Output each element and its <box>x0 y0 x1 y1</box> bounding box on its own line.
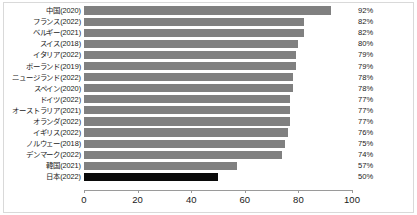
bar-track <box>84 83 352 94</box>
bar <box>84 140 285 148</box>
bar <box>84 18 304 26</box>
bar-value-label: 82% <box>352 17 412 26</box>
x-axis-tick <box>352 190 353 193</box>
bar-category-label: デンマーク(2022) <box>0 150 84 159</box>
bar-value-label: 77% <box>352 95 412 104</box>
bar-track <box>84 149 352 160</box>
x-axis-tick-label: 40 <box>186 194 197 206</box>
bar <box>84 29 304 37</box>
bar-track <box>84 94 352 105</box>
bar-value-label: 79% <box>352 50 412 59</box>
bar-value-label: 78% <box>352 84 412 93</box>
bar-category-label: オランダ(2022) <box>0 117 84 126</box>
x-axis-line <box>84 190 352 191</box>
x-axis-tick <box>245 190 246 193</box>
bar-category-label: オーストラリア(2021) <box>0 106 84 115</box>
bar <box>84 117 290 125</box>
bar-value-label: 78% <box>352 73 412 82</box>
bar-category-label: フランス(2022) <box>0 17 84 26</box>
bar <box>84 62 296 70</box>
plot-area: 中国(2020)92%フランス(2022)82%ベルギー(2021)82%スイス… <box>0 5 417 190</box>
bar-category-label: 韓国(2021) <box>0 161 84 170</box>
bar-value-label: 57% <box>352 161 412 170</box>
bar-category-label: ノルウェー(2018) <box>0 139 84 148</box>
bar <box>84 151 282 159</box>
bar <box>84 128 288 136</box>
x-axis-tick-label: 80 <box>293 194 304 206</box>
bar-row: ポーランド(2019)79% <box>0 60 417 71</box>
bar-row: 日本(2022)50% <box>0 171 417 182</box>
bar-value-label: 80% <box>352 39 412 48</box>
bar <box>84 40 298 48</box>
bar-row: フランス(2022)82% <box>0 16 417 27</box>
bar-row: ニュージランド(2022)78% <box>0 72 417 83</box>
bar <box>84 95 290 103</box>
bar-track <box>84 127 352 138</box>
bar-value-label: 77% <box>352 106 412 115</box>
bar-category-label: スイス(2018) <box>0 39 84 48</box>
bar-category-label: イタリア(2022) <box>0 50 84 59</box>
bar-value-label: 50% <box>352 172 412 181</box>
bar-category-label: 日本(2022) <box>0 172 84 181</box>
bar <box>84 162 237 170</box>
bar-row: オーストラリア(2021)77% <box>0 105 417 116</box>
bar-row: オランダ(2022)77% <box>0 116 417 127</box>
bar-track <box>84 171 352 182</box>
bar-value-label: 79% <box>352 62 412 71</box>
bar-category-label: ベルギー(2021) <box>0 28 84 37</box>
x-axis-tick-label: 0 <box>81 194 86 206</box>
bar-track <box>84 138 352 149</box>
bar-track <box>84 60 352 71</box>
bar-row: イギリス(2022)76% <box>0 127 417 138</box>
x-axis-tick <box>191 190 192 193</box>
bar-row: ベルギー(2021)82% <box>0 27 417 38</box>
bar-track <box>84 160 352 171</box>
bar-track <box>84 49 352 60</box>
bar-row: デンマーク(2022)74% <box>0 149 417 160</box>
bar-value-label: 92% <box>352 6 412 15</box>
bar-chart: 中国(2020)92%フランス(2022)82%ベルギー(2021)82%スイス… <box>0 0 417 215</box>
bar <box>84 51 296 59</box>
x-axis-tick-label: 20 <box>132 194 143 206</box>
bar-value-label: 76% <box>352 128 412 137</box>
bar-track <box>84 16 352 27</box>
x-axis-tick-label: 60 <box>240 194 251 206</box>
x-axis-tick <box>138 190 139 193</box>
bar-value-label: 75% <box>352 139 412 148</box>
x-axis-tick-label: 100 <box>344 194 360 206</box>
bar-row: ドイツ(2022)77% <box>0 94 417 105</box>
bar <box>84 84 293 92</box>
bar-row: スイス(2018)80% <box>0 38 417 49</box>
bar-row: イタリア(2022)79% <box>0 49 417 60</box>
bar-category-label: ポーランド(2019) <box>0 62 84 71</box>
bar <box>84 106 290 114</box>
bar-track <box>84 116 352 127</box>
x-axis-tick <box>84 190 85 193</box>
bar-row: 中国(2020)92% <box>0 5 417 16</box>
bar-row: ノルウェー(2018)75% <box>0 138 417 149</box>
bar-row: 韓国(2021)57% <box>0 160 417 171</box>
bar-track <box>84 72 352 83</box>
bar-row: スペイン(2020)78% <box>0 83 417 94</box>
bar-track <box>84 5 352 16</box>
bar <box>84 73 293 81</box>
bar-highlighted <box>84 173 218 181</box>
bar-category-label: ドイツ(2022) <box>0 95 84 104</box>
bar-value-label: 82% <box>352 28 412 37</box>
x-axis-tick <box>298 190 299 193</box>
bar-track <box>84 27 352 38</box>
bar-track <box>84 38 352 49</box>
x-axis: 020406080100 <box>84 190 352 212</box>
bar-track <box>84 105 352 116</box>
bar-category-label: イギリス(2022) <box>0 128 84 137</box>
bar-category-label: ニュージランド(2022) <box>0 73 84 82</box>
bar-value-label: 74% <box>352 150 412 159</box>
bar-value-label: 77% <box>352 117 412 126</box>
bar-category-label: スペイン(2020) <box>0 84 84 93</box>
bar <box>84 6 331 14</box>
bar-category-label: 中国(2020) <box>0 6 84 15</box>
